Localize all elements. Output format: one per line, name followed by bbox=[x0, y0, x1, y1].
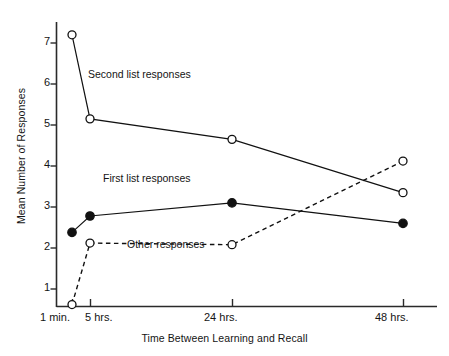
data-point-marker bbox=[228, 199, 236, 207]
data-point-marker bbox=[68, 31, 76, 39]
x-axis-tick-label: 48 hrs. bbox=[375, 311, 409, 323]
y-axis-tick-label: 4 bbox=[36, 158, 50, 170]
data-point-marker bbox=[228, 241, 236, 249]
data-point-marker bbox=[86, 115, 94, 123]
y-axis-tick-label: 5 bbox=[36, 117, 50, 129]
series-line bbox=[72, 35, 403, 193]
y-axis-tick-label: 1 bbox=[36, 281, 50, 293]
data-point-marker bbox=[68, 301, 76, 309]
data-point-marker bbox=[68, 228, 76, 236]
y-axis-tick-label: 6 bbox=[36, 76, 50, 88]
series-annotation-1: Second list responses bbox=[88, 68, 191, 80]
data-point-marker bbox=[399, 219, 407, 227]
chart-plot-area bbox=[0, 0, 449, 356]
chart-series-2 bbox=[68, 199, 407, 237]
x-axis-tick-label: 24 hrs. bbox=[204, 311, 238, 323]
series-annotation-2: First list responses bbox=[103, 172, 191, 184]
data-point-marker bbox=[399, 157, 407, 165]
series-annotation-3: Other responses bbox=[127, 238, 205, 250]
data-point-marker bbox=[86, 239, 94, 247]
x-axis-tick-label: 1 min. bbox=[40, 311, 70, 323]
series-line bbox=[72, 203, 403, 233]
data-point-marker bbox=[228, 135, 236, 143]
y-axis-title: Mean Number of Responses bbox=[15, 86, 27, 226]
x-axis-tick-label: 5 hrs. bbox=[85, 311, 113, 323]
data-point-marker bbox=[86, 212, 94, 220]
chart-figure: 1234567 1 min.5 hrs.24 hrs.48 hrs. Secon… bbox=[0, 0, 449, 356]
y-axis-tick-label: 3 bbox=[36, 199, 50, 211]
y-axis-tick-label: 7 bbox=[36, 35, 50, 47]
y-axis-ticks bbox=[51, 43, 57, 289]
y-axis-tick-label: 2 bbox=[36, 240, 50, 252]
data-point-marker bbox=[399, 189, 407, 197]
x-axis-ticks bbox=[73, 299, 404, 307]
x-axis-title: Time Between Learning and Recall bbox=[0, 332, 449, 344]
